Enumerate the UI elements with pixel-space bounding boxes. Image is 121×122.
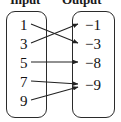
output-value-3: −8 (85, 56, 101, 71)
input-value-2: 3 (20, 37, 28, 52)
output-value-2: −3 (85, 37, 101, 52)
output-value-4: −9 (85, 78, 101, 93)
input-value-3: 5 (20, 56, 28, 71)
input-value-1: 1 (20, 18, 28, 33)
mapping-diagram: Input Output 1 3 5 7 9 −1 −3 −8 −9 (0, 0, 121, 122)
output-value-1: −1 (85, 18, 101, 33)
output-column-header: Output (62, 0, 101, 6)
input-value-4: 7 (20, 75, 28, 90)
input-column-header: Input (10, 0, 40, 6)
input-value-5: 9 (20, 94, 28, 109)
